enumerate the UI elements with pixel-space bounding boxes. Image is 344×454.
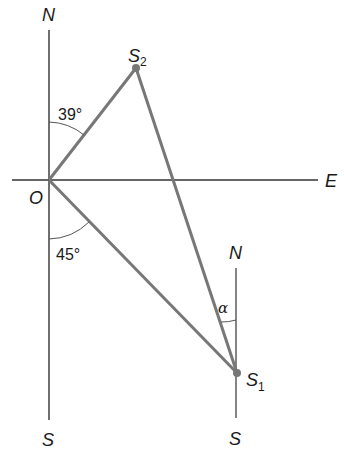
angle-arc-39	[49, 122, 84, 135]
angle-arc-alpha	[221, 320, 236, 322]
angle-label-39: 39°	[58, 106, 82, 123]
bearing-diagram: N S E O S2 S1 N S 39° 45° α	[0, 0, 344, 454]
label-south-s1: S	[229, 429, 241, 449]
label-south-main: S	[42, 430, 54, 450]
label-s1: S1	[246, 370, 265, 394]
label-north-main: N	[42, 5, 56, 25]
angle-label-alpha: α	[218, 299, 228, 317]
angle-arc-45	[49, 222, 89, 239]
label-north-s1: N	[229, 243, 243, 263]
segment-s2-s1	[136, 68, 237, 373]
label-origin: O	[29, 188, 43, 208]
angle-label-45: 45°	[56, 246, 80, 263]
segment-o-s1	[49, 180, 237, 373]
point-s1	[233, 369, 241, 377]
label-s2: S2	[128, 46, 147, 69]
label-east: E	[325, 171, 338, 191]
